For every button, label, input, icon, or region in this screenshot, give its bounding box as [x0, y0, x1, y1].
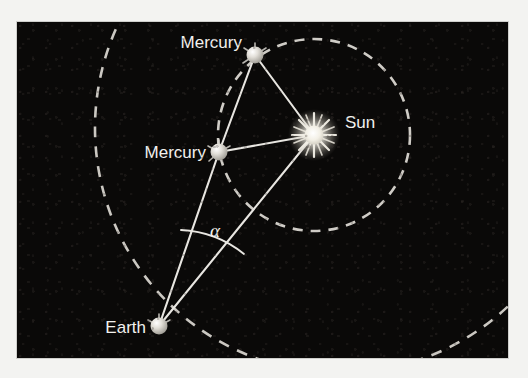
- astronomy-diagram-panel: Mercury Mercury Sun Earth α: [17, 22, 508, 358]
- label-mercury-upper: Mercury: [181, 33, 243, 52]
- diagram-canvas: Mercury Mercury Sun Earth α: [17, 22, 508, 358]
- earth-orbit-path: [95, 22, 508, 358]
- figure-page: Mercury Mercury Sun Earth α: [0, 0, 528, 378]
- label-elongation-angle: α: [210, 220, 221, 241]
- sun-body: [288, 109, 340, 161]
- label-earth: Earth: [105, 318, 146, 337]
- mercury-upper-body: [243, 43, 266, 64]
- mercury-lower-body: [208, 140, 230, 161]
- label-sun: Sun: [345, 113, 375, 132]
- label-mercury-lower: Mercury: [145, 143, 207, 162]
